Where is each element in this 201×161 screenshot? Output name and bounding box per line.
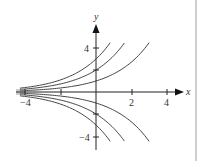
solution-curve-cneg2 [20,95,124,141]
y-tick-label-neg4: −4 [79,132,90,143]
x-axis-label: x [185,86,191,97]
solution-curve-cneg3 [20,96,110,141]
x-axis-arrow-icon [175,89,184,96]
y-axis-arrow-icon [93,24,100,33]
y-axis-label: y [93,11,99,22]
x-tick-label-neg4: −4 [20,97,31,108]
x-tick-label-4: 4 [164,97,169,108]
solution-curve-c3 [20,43,110,88]
y-tick-label-4: 4 [84,43,89,54]
solution-curves-plot: −4 2 4 4 −4 x y [0,0,201,161]
side-divider [195,0,197,161]
diagram: −4 2 4 4 −4 x y [0,0,201,161]
solution-curve-c2 [20,43,124,89]
x-tick-label-2: 2 [129,97,134,108]
